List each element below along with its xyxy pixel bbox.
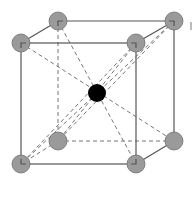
atom-back-bottom-left xyxy=(49,132,67,150)
atom-back-bottom-right xyxy=(165,132,183,150)
face-diagonal-front-right xyxy=(21,43,136,164)
face-diagonal-back-right xyxy=(58,21,174,141)
bcc-unit-cell-diagram xyxy=(0,0,195,202)
atom-body-center xyxy=(88,84,106,102)
edge-artifact-mark xyxy=(190,22,192,30)
